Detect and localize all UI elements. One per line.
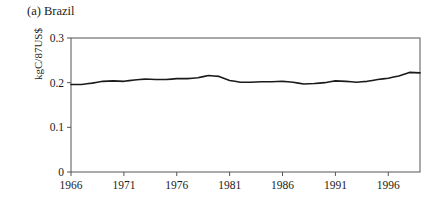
x-tick-label: 1986 bbox=[271, 179, 294, 191]
x-tick-label: 1976 bbox=[165, 179, 188, 191]
data-series-line bbox=[71, 72, 420, 84]
plot-border bbox=[71, 38, 420, 172]
x-axis-ticks: 1966197119761981198619911996 bbox=[60, 172, 401, 191]
line-chart-plot: 00.10.20.3 1966197119761981198619911996 bbox=[0, 0, 440, 202]
chart-figure: (a) Brazil kgC/87US$ 00.10.20.3 19661971… bbox=[0, 0, 440, 202]
y-tick-label: 0 bbox=[58, 166, 64, 178]
y-tick-label: 0.3 bbox=[50, 32, 65, 44]
x-tick-label: 1996 bbox=[377, 179, 400, 191]
y-tick-label: 0.1 bbox=[50, 121, 65, 133]
y-tick-label: 0.2 bbox=[50, 77, 65, 89]
axis-frame bbox=[71, 38, 420, 172]
x-tick-label: 1966 bbox=[60, 179, 83, 191]
x-tick-label: 1991 bbox=[324, 179, 347, 191]
y-axis-ticks: 00.10.20.3 bbox=[50, 32, 71, 178]
x-tick-label: 1981 bbox=[218, 179, 241, 191]
x-tick-label: 1971 bbox=[112, 179, 135, 191]
